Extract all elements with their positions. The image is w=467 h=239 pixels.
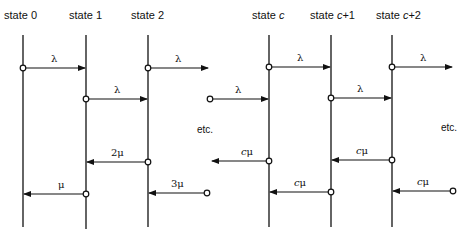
rate-label-lambda: λ: [114, 84, 121, 95]
birth-death-diagram: state 0 state 1 state 2 state c state c+…: [0, 0, 467, 239]
state-c-plus-2-label: state c+2: [376, 9, 421, 21]
rate-label-c-mu: cμ: [417, 176, 430, 187]
rate-label-lambda: λ: [297, 52, 304, 63]
state-2-label: state 2: [131, 9, 164, 21]
rate-label-3mu: 3μ: [171, 178, 184, 189]
rate-label-lambda: λ: [357, 83, 364, 94]
state-c-label: state c: [252, 9, 285, 21]
state-0-label: state 0: [4, 9, 37, 21]
diagram-svg: state 0 state 1 state 2 state c state c+…: [0, 0, 467, 239]
state-1-label: state 1: [69, 9, 102, 21]
rate-label-c-mu: cμ: [241, 146, 254, 157]
rate-label-2mu: 2μ: [111, 147, 124, 158]
rate-label-c-mu: cμ: [356, 145, 369, 156]
state-c-plus-1-label: state c+1: [310, 9, 355, 21]
rate-label-lambda: λ: [175, 53, 182, 64]
rate-label-c-mu: cμ: [294, 177, 307, 188]
rate-label-mu: μ: [58, 179, 65, 190]
backward-arrows: [24, 160, 451, 194]
rate-label-lambda: λ: [420, 52, 427, 63]
ellipsis-label: etc.: [441, 122, 457, 133]
ellipsis-label: etc.: [197, 124, 213, 135]
rate-label-lambda: λ: [51, 53, 58, 64]
rate-label-lambda: λ: [235, 84, 242, 95]
